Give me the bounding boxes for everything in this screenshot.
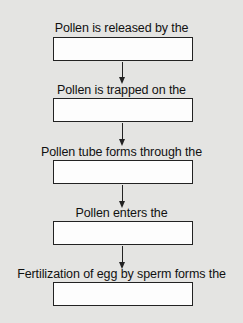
- step-2-answer-box[interactable]: [53, 98, 193, 122]
- step-4-answer-box[interactable]: [53, 221, 193, 245]
- step-3-answer-box[interactable]: [53, 160, 193, 184]
- step-4-label: Pollen enters the: [0, 206, 243, 220]
- step-5-answer-box[interactable]: [53, 282, 193, 306]
- step-3-label: Pollen tube forms through the: [0, 145, 243, 159]
- step-2-label: Pollen is trapped on the: [0, 83, 243, 97]
- step-5-label: Fertilization of egg by sperm forms the: [0, 267, 243, 281]
- step-1-label: Pollen is released by the: [0, 21, 243, 35]
- step-1-answer-box[interactable]: [53, 37, 193, 61]
